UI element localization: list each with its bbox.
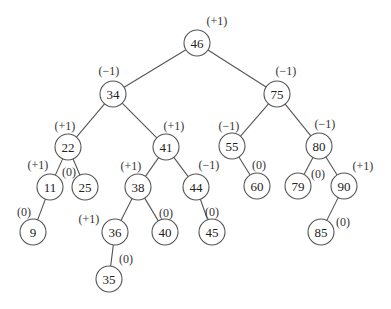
node-value: 40: [159, 225, 172, 240]
node-value: 75: [271, 87, 284, 102]
tree-node-38: 38: [125, 174, 151, 200]
node-value: 11: [44, 180, 57, 195]
balance-factor-36: (+1): [79, 212, 100, 226]
tree-edges: [38, 50, 339, 266]
edge-46-75: [208, 50, 266, 87]
edge-41-44: [174, 157, 188, 176]
node-value: 35: [103, 272, 116, 287]
edge-11-9: [38, 199, 46, 220]
balance-factor-85: (0): [336, 215, 350, 229]
node-value: 80: [313, 139, 326, 154]
tree-node-9: 9: [20, 219, 46, 245]
balance-factor-45: (0): [205, 205, 219, 219]
tree-node-45: 45: [199, 219, 225, 245]
balance-factor-40: (0): [159, 206, 173, 220]
tree-node-40: 40: [152, 219, 178, 245]
balance-factor-22: (+1): [55, 119, 76, 133]
avl-tree-diagram: 463475224155801125384460799093640458535 …: [0, 0, 391, 309]
tree-node-75: 75: [264, 81, 290, 107]
edge-41-38: [145, 158, 158, 177]
balance-factor-55: (−1): [219, 119, 240, 133]
edge-36-35: [111, 245, 114, 266]
node-value: 55: [226, 139, 239, 154]
tree-node-22: 22: [55, 134, 81, 160]
node-value: 90: [338, 179, 351, 194]
node-value: 25: [79, 180, 92, 195]
balance-factor-60: (0): [252, 158, 266, 172]
balance-factor-90: (+1): [353, 159, 374, 173]
tree-node-44: 44: [183, 174, 209, 200]
tree-node-34: 34: [100, 81, 126, 107]
node-value: 38: [132, 180, 145, 195]
node-value: 85: [315, 225, 328, 240]
edge-75-55: [241, 104, 269, 136]
tree-node-46: 46: [184, 30, 210, 56]
balance-factor-35: (0): [119, 252, 133, 266]
node-value: 44: [190, 180, 204, 195]
edge-38-36: [121, 199, 132, 221]
balance-factor-38: (+1): [121, 159, 142, 173]
node-value: 9: [30, 225, 37, 240]
balance-factor-41: (+1): [164, 119, 185, 133]
edge-75-80: [285, 104, 311, 136]
node-value: 22: [62, 140, 75, 155]
tree-node-41: 41: [153, 134, 179, 160]
balance-factor-11: (+1): [28, 158, 49, 172]
balance-factor-44: (−1): [199, 158, 220, 172]
node-value: 79: [292, 179, 305, 194]
edge-46-34: [124, 50, 186, 88]
node-value: 60: [251, 179, 264, 194]
node-value: 41: [160, 140, 173, 155]
balance-factor-75: (−1): [276, 64, 297, 78]
balance-factor-9: (0): [17, 205, 31, 219]
tree-node-55: 55: [219, 133, 245, 159]
tree-nodes: 463475224155801125384460799093640458535: [20, 30, 357, 292]
edge-55-60: [239, 157, 250, 175]
edge-34-22: [76, 104, 104, 137]
balance-factor-34: (−1): [99, 64, 120, 78]
balance-factor-46: (+1): [207, 14, 228, 28]
tree-node-85: 85: [308, 219, 334, 245]
tree-node-80: 80: [306, 133, 332, 159]
edge-34-41: [122, 103, 157, 138]
tree-node-11: 11: [37, 174, 63, 200]
tree-node-60: 60: [244, 173, 270, 199]
node-value: 46: [191, 36, 205, 51]
node-value: 34: [107, 87, 121, 102]
balance-factor-79: (0): [311, 167, 325, 181]
edge-38-40: [145, 198, 159, 221]
balance-factor-80: (−1): [315, 117, 336, 131]
edge-80-90: [326, 157, 337, 175]
balance-factor-25: (0): [62, 165, 76, 179]
node-value: 45: [206, 225, 219, 240]
tree-node-90: 90: [331, 173, 357, 199]
tree-node-36: 36: [102, 219, 128, 245]
tree-node-35: 35: [96, 266, 122, 292]
tree-node-79: 79: [285, 173, 311, 199]
node-value: 36: [109, 225, 123, 240]
